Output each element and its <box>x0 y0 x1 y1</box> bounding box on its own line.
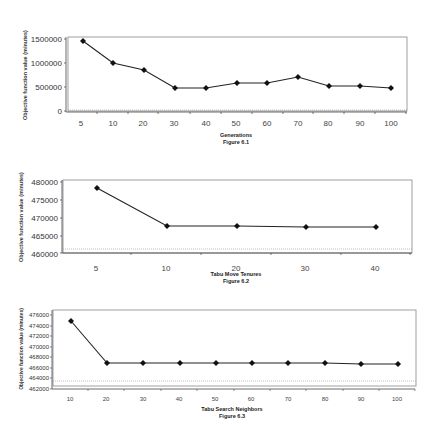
x-tick: 80 <box>324 119 333 128</box>
y-axis-title: Objective function value (minutes) <box>18 172 24 262</box>
figure-6-2: 480000 475000 470000 465000 460000 5 10 … <box>0 145 440 285</box>
plot-area <box>53 310 416 386</box>
x-tick-labels: 10 20 30 40 50 60 70 80 90 100 <box>67 396 403 402</box>
x-axis-title: Tabu Move Tenures <box>211 271 262 277</box>
x-tick: 90 <box>358 396 365 402</box>
figure-6-2-plot: 480000 475000 470000 465000 460000 5 10 … <box>0 145 440 285</box>
data-markers <box>94 185 379 230</box>
y-tick: 464000 <box>29 375 50 381</box>
x-tick: 20 <box>103 396 110 402</box>
x-tick: 100 <box>392 396 403 402</box>
x-tick: 30 <box>301 264 310 273</box>
y-tick: 462000 <box>29 386 50 392</box>
y-tick: 468000 <box>29 354 50 360</box>
x-tick: 10 <box>109 119 118 128</box>
x-tick: 5 <box>79 119 84 128</box>
y-axis-title: Objective function value (minutes) <box>18 308 24 390</box>
data-line <box>71 321 398 364</box>
y-tick: 470000 <box>31 214 58 223</box>
y-tick: 1500000 <box>31 35 63 44</box>
x-tick: 10 <box>162 264 171 273</box>
y-tick: 476000 <box>29 312 50 318</box>
data-line <box>97 188 376 227</box>
x-tick: 100 <box>384 119 398 128</box>
y-tick: 480000 <box>31 178 58 187</box>
x-tick: 50 <box>232 119 241 128</box>
figure-6-1-plot: 1500000 1000000 500000 0 5 10 20 30 40 5… <box>0 0 440 145</box>
x-tick: 70 <box>294 119 303 128</box>
y-tick-labels: 1500000 1000000 500000 0 <box>31 35 63 116</box>
x-tick: 10 <box>67 396 74 402</box>
y-tick: 470000 <box>29 344 50 350</box>
x-tick: 90 <box>356 119 365 128</box>
x-tick: 30 <box>170 119 179 128</box>
data-markers <box>80 38 394 91</box>
x-tick: 60 <box>263 119 272 128</box>
y-tick: 466000 <box>29 365 50 371</box>
x-tick: 40 <box>371 264 380 273</box>
y-tick: 1000000 <box>31 59 63 68</box>
x-tick: 40 <box>202 119 211 128</box>
x-tick: 60 <box>248 396 255 402</box>
figure-6-3: 476000 474000 472000 470000 468000 46600… <box>0 285 440 426</box>
plot-area <box>63 180 412 253</box>
x-tick: 5 <box>94 264 99 273</box>
y-tick-labels: 476000 474000 472000 470000 468000 46600… <box>29 312 50 392</box>
figure-caption: Figure 6.3 <box>219 413 245 419</box>
y-tick: 460000 <box>31 250 58 259</box>
y-tick: 472000 <box>29 333 50 339</box>
x-tick: 70 <box>285 396 292 402</box>
x-tick: 20 <box>139 119 148 128</box>
y-tick: 465000 <box>31 232 58 241</box>
x-tick-labels: 5 10 20 30 40 50 60 70 80 90 100 <box>79 119 398 128</box>
figure-caption: Figure 6.2 <box>223 278 249 284</box>
plot-area <box>68 37 407 111</box>
x-tick: 80 <box>322 396 329 402</box>
y-tick: 500000 <box>35 83 62 92</box>
x-axis-title: Generations <box>220 132 252 138</box>
y-tick: 474000 <box>29 323 50 329</box>
x-tick: 40 <box>176 396 183 402</box>
y-tick: 475000 <box>31 196 58 205</box>
y-axis-title: Objective function value (minutes) <box>22 30 28 120</box>
figure-6-3-plot: 476000 474000 472000 470000 468000 46600… <box>0 285 440 426</box>
x-tick: 50 <box>212 396 219 402</box>
x-tick: 30 <box>140 396 147 402</box>
figure-6-1: 1500000 1000000 500000 0 5 10 20 30 40 5… <box>0 0 440 145</box>
x-axis-title: Tabu Search Neighbors <box>201 406 262 412</box>
y-tick: 0 <box>58 107 63 116</box>
data-markers <box>68 318 401 367</box>
y-tick-labels: 480000 475000 470000 465000 460000 <box>31 178 58 259</box>
